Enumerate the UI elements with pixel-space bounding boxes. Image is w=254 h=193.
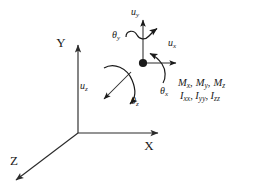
- rotation-x-label: θx: [160, 85, 169, 98]
- moments-comma-2: ,: [208, 77, 211, 88]
- inertias-comma-2: ,: [205, 90, 208, 101]
- translation-y-subscript: y: [135, 11, 140, 19]
- translation-z-subscript: z: [84, 85, 88, 93]
- rotation-y-label: θy: [112, 29, 121, 42]
- rotation-z-label: θz: [131, 95, 139, 108]
- engineering-diagram-canvas: Y X Z: [0, 0, 254, 193]
- node-point: [139, 59, 147, 67]
- rotation-x-curve: [150, 54, 165, 84]
- inertias-line: Ixx,Iyy,Izz: [179, 90, 220, 103]
- rotation-y-curve: [126, 29, 157, 39]
- translation-z-label: uz: [80, 80, 88, 93]
- translation-x-subscript: x: [172, 42, 177, 50]
- translation-x-label: ux: [168, 37, 177, 50]
- inertias-comma-1: ,: [190, 90, 193, 101]
- moments-line: Mx,My,Mz: [177, 77, 225, 90]
- global-z-axis: [16, 133, 78, 180]
- global-x-axis-label: X: [144, 138, 154, 153]
- rotation-y-subscript: y: [116, 34, 121, 42]
- translation-z-arrow: [104, 72, 131, 99]
- global-z-axis-label: Z: [10, 153, 18, 168]
- moment-z-subscript: z: [221, 81, 225, 90]
- moments-comma-1: ,: [190, 77, 193, 88]
- section-properties-block: Mx,My,Mz Ixx,Iyy,Izz: [177, 77, 225, 103]
- rotation-x-subscript: x: [164, 90, 169, 98]
- rotation-z-subscript: z: [135, 100, 139, 108]
- diagram-svg: Y X Z: [0, 0, 254, 193]
- rotation-labels: θy θx θz: [112, 29, 169, 108]
- translation-labels: uy ux uz: [80, 6, 177, 93]
- translation-y-label: uy: [131, 6, 140, 19]
- global-y-axis-label: Y: [56, 35, 66, 50]
- inertia-zz-subscript: zz: [213, 94, 220, 103]
